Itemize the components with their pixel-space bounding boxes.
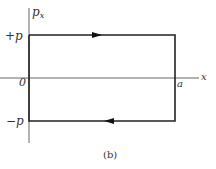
px-axis-label: px <box>32 5 45 20</box>
x-axis-label: x <box>201 71 207 82</box>
left-arrow-icon <box>104 118 114 124</box>
plus-p-label: +p <box>5 29 23 43</box>
a-label: a <box>177 78 183 89</box>
phase-space-diagram: px +p 0 −p a x (b) <box>0 0 216 169</box>
right-arrow-icon <box>92 32 102 38</box>
diagram-svg: px +p 0 −p a x (b) <box>0 0 216 169</box>
origin-label: 0 <box>19 76 26 89</box>
figure-caption: (b) <box>103 149 117 160</box>
minus-p-label: −p <box>6 114 24 128</box>
